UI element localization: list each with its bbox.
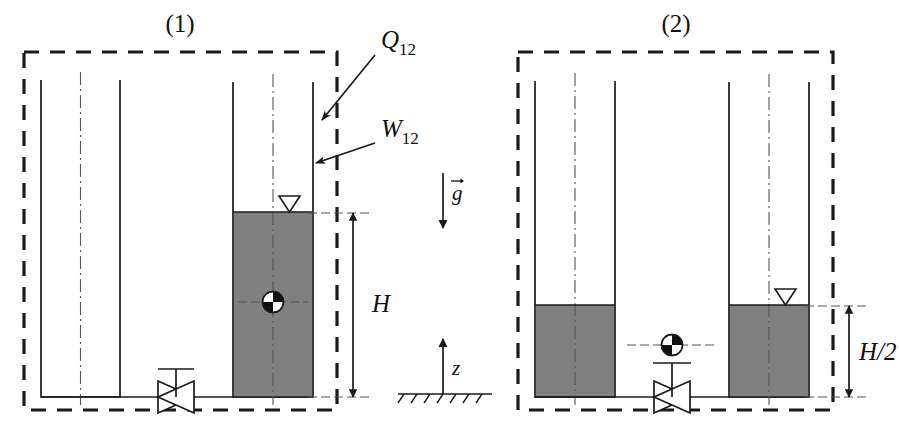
heat-subscript: 12: [399, 40, 416, 59]
free-surface-triangle-icon: [775, 289, 796, 305]
panel-1-height-dimension: H: [308, 213, 392, 397]
panel-2-left-tank: [535, 73, 615, 405]
thermodynamic-tank-diagram: (1): [0, 0, 899, 437]
z-axis: z: [443, 339, 460, 394]
gravity-label: g: [452, 181, 463, 205]
work-subscript: 12: [402, 129, 419, 148]
panel-2-label: (2): [661, 10, 690, 38]
panel-1-label: (1): [165, 10, 194, 38]
ground-line: [398, 394, 492, 403]
panel-2: (2): [518, 10, 897, 413]
work-transfer-annotation: W12: [316, 115, 419, 163]
heat-transfer-label: Q12: [381, 26, 416, 59]
work-symbol: W: [381, 115, 404, 142]
gravity-vector: g: [443, 173, 464, 228]
work-transfer-label: W12: [381, 115, 419, 148]
panel-2-valve[interactable]: [653, 363, 691, 413]
half-height-dimension-label: H/2: [858, 338, 897, 365]
heat-transfer-arrow: [322, 55, 375, 120]
energy-transfer-annotations: Q12 W12: [316, 26, 419, 163]
ground-hatching: [398, 394, 482, 403]
panel-1-valve[interactable]: [158, 369, 194, 413]
panel-2-right-tank: [729, 74, 809, 405]
diagram-canvas: (1): [0, 0, 899, 437]
panel-1-right-tank: [233, 74, 313, 405]
center-of-mass-icon: [263, 292, 284, 313]
heat-symbol: Q: [381, 26, 399, 53]
panel-1: (1): [24, 10, 392, 413]
z-axis-label: z: [451, 356, 460, 380]
free-surface-triangle-icon: [279, 196, 300, 212]
work-transfer-arrow: [316, 143, 375, 163]
gravity-symbol: g: [452, 181, 463, 205]
height-dimension-label: H: [371, 290, 392, 317]
panel-1-left-tank: [41, 72, 120, 405]
center-of-mass-icon: [662, 335, 683, 356]
panel-2-center-of-mass: [627, 335, 718, 356]
panel-2-half-height-dimension: H/2: [805, 306, 897, 397]
reference-axes: g z: [398, 173, 492, 403]
